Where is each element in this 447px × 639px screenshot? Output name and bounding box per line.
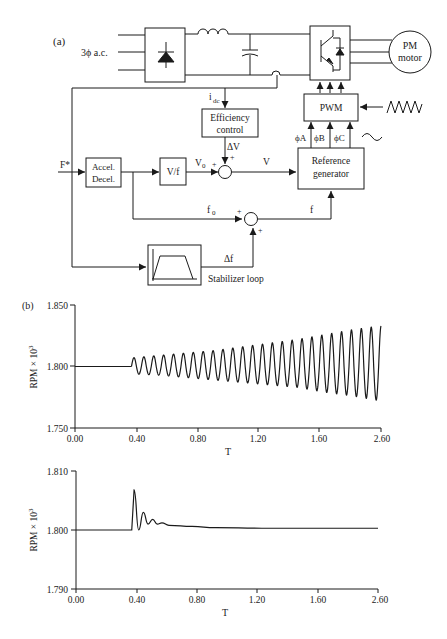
svg-text:motor: motor xyxy=(398,52,423,63)
dc-link xyxy=(185,29,310,75)
reference-generator-block: Reference generator xyxy=(298,148,364,189)
svg-text:ϕB: ϕB xyxy=(314,133,325,143)
svg-text:2.60: 2.60 xyxy=(374,434,391,444)
carrier-triangle-icon xyxy=(387,101,422,113)
svg-text:generator: generator xyxy=(313,169,350,179)
vf-block: V/f xyxy=(160,158,186,185)
svg-text:0.40: 0.40 xyxy=(129,434,146,444)
svg-text:f: f xyxy=(310,205,314,215)
speed-curve-stabilized xyxy=(76,490,378,530)
svg-text:0.00: 0.00 xyxy=(67,434,84,444)
svg-text:ϕC: ϕC xyxy=(334,133,345,143)
svg-text:1.20: 1.20 xyxy=(249,595,266,605)
svg-text:dc: dc xyxy=(213,97,220,105)
svg-text:0: 0 xyxy=(202,162,206,170)
svg-text:RPM × 103: RPM × 103 xyxy=(27,345,39,389)
svg-text:ΔV: ΔV xyxy=(227,142,240,152)
efficiency-control-block: Efficiency control xyxy=(202,109,258,137)
svg-text:+: + xyxy=(212,160,217,169)
svg-text:0.00: 0.00 xyxy=(68,595,85,605)
svg-text:f: f xyxy=(207,205,211,215)
svg-text:RPM × 103: RPM × 103 xyxy=(27,508,39,552)
svg-text:T: T xyxy=(222,607,228,618)
pm-motor: PM motor xyxy=(389,31,431,73)
inductor-icon xyxy=(198,29,228,34)
axes-bottom xyxy=(71,471,378,593)
svg-text:Δf: Δf xyxy=(224,254,234,264)
diode-icon xyxy=(158,52,174,62)
inverter-block xyxy=(310,26,350,80)
svg-text:+: + xyxy=(258,226,263,235)
svg-text:1.810: 1.810 xyxy=(47,467,69,477)
svg-text:Decel.: Decel. xyxy=(92,174,115,184)
svg-text:i: i xyxy=(209,92,212,102)
wire-crossover xyxy=(272,71,280,75)
svg-text:Accel.: Accel. xyxy=(92,162,115,172)
figure-canvas: (a) 3ϕ a.c. xyxy=(0,0,447,639)
svg-text:Efficiency: Efficiency xyxy=(210,113,250,123)
svg-text:+: + xyxy=(230,153,235,162)
pwm-block: PWM xyxy=(304,94,358,121)
svg-text:(b): (b) xyxy=(22,300,34,312)
svg-text:1.60: 1.60 xyxy=(311,434,328,444)
svg-text:ϕA: ϕA xyxy=(295,133,307,143)
chart-stabilized: 1.810 1.800 1.790 0.00 0.40 0.80 1.20 1.… xyxy=(27,467,389,618)
svg-text:Stabilizer loop: Stabilizer loop xyxy=(208,274,264,284)
svg-text:V: V xyxy=(195,158,202,168)
accel-decel-block: Accel. Decel. xyxy=(86,158,121,187)
svg-text:0.40: 0.40 xyxy=(129,595,146,605)
svg-text:PM: PM xyxy=(403,40,418,51)
svg-text:+: + xyxy=(237,207,242,216)
svg-text:1.800: 1.800 xyxy=(47,362,69,372)
svg-text:1.20: 1.20 xyxy=(250,434,267,444)
svg-text:1.60: 1.60 xyxy=(310,595,327,605)
supply-label: 3ϕ a.c. xyxy=(81,47,108,58)
svg-text:Reference: Reference xyxy=(312,156,351,166)
svg-text:1.850: 1.850 xyxy=(47,301,69,311)
speed-curve-unstabilized xyxy=(75,326,381,400)
panel-a-label: (a) xyxy=(53,35,66,48)
svg-text:T: T xyxy=(225,446,231,457)
igbt-icon xyxy=(336,49,344,55)
svg-text:0: 0 xyxy=(212,209,216,217)
svg-text:0.80: 0.80 xyxy=(189,595,206,605)
chart-unstabilized: (b) 1.850 1.800 1.750 0.00 0.40 0.80 1.2… xyxy=(22,300,391,457)
svg-text:PWM: PWM xyxy=(320,103,343,113)
svg-text:F*: F* xyxy=(60,160,70,170)
summing-junction-f xyxy=(245,213,258,226)
svg-text:V/f: V/f xyxy=(167,167,181,177)
svg-text:V: V xyxy=(263,157,270,167)
rectifier-block xyxy=(145,28,185,82)
sine-wave-icon xyxy=(362,134,382,141)
stabilizer-block xyxy=(148,245,201,285)
motor-wires xyxy=(350,40,392,63)
svg-text:1.800: 1.800 xyxy=(47,526,69,536)
svg-text:2.60: 2.60 xyxy=(372,595,389,605)
svg-text:0.80: 0.80 xyxy=(190,434,207,444)
summing-junction-v xyxy=(219,166,232,179)
ac-input-lines xyxy=(118,35,145,70)
block-diagram: (a) 3ϕ a.c. xyxy=(53,26,431,285)
svg-text:1.790: 1.790 xyxy=(47,585,69,595)
svg-text:1.750: 1.750 xyxy=(47,424,69,434)
svg-text:control: control xyxy=(217,125,244,135)
